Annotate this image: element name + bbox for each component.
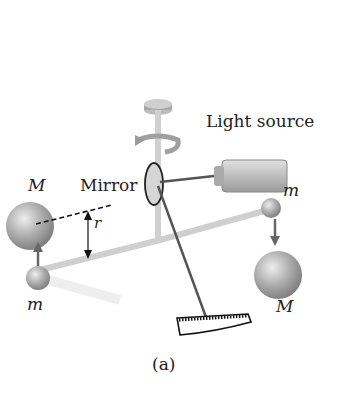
- label-m-right: m: [283, 180, 299, 200]
- caption: (a): [152, 354, 175, 374]
- label-light-source: Light source: [206, 111, 314, 131]
- incident-beam: [160, 176, 214, 182]
- label-r: r: [94, 214, 101, 232]
- mirror: [145, 163, 163, 205]
- label-M-left: M: [28, 175, 45, 195]
- label-mirror: Mirror: [80, 175, 137, 195]
- scale: [177, 314, 251, 335]
- reflected-beam: [158, 186, 207, 320]
- light-source: [214, 160, 287, 192]
- label-M-right: M: [276, 296, 293, 316]
- small-mass-right: [261, 198, 281, 218]
- small-mass-left: [26, 266, 50, 290]
- large-mass-left: [6, 202, 54, 250]
- label-m-left: m: [27, 294, 43, 314]
- large-mass-right: [254, 251, 302, 299]
